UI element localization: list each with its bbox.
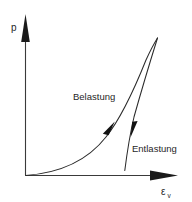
loading-curve-path — [26, 38, 158, 176]
loading-curve — [26, 38, 158, 176]
y-axis — [21, 14, 30, 176]
unloading-arrow-icon — [131, 121, 138, 138]
x-axis-label: ε — [161, 186, 166, 197]
pressure-volumetric-strain-diagram: p ε v Belastung Entlastung — [0, 0, 192, 202]
loading-curve-label: Belastung — [73, 91, 115, 102]
arrow-right-icon — [150, 171, 178, 181]
x-axis-label-subscript: v — [168, 192, 172, 199]
unloading-curve-label: Entlastung — [132, 143, 177, 154]
arrow-up-icon — [21, 14, 30, 42]
y-axis-label: p — [11, 22, 17, 33]
loading-arrow-icon — [103, 122, 115, 136]
